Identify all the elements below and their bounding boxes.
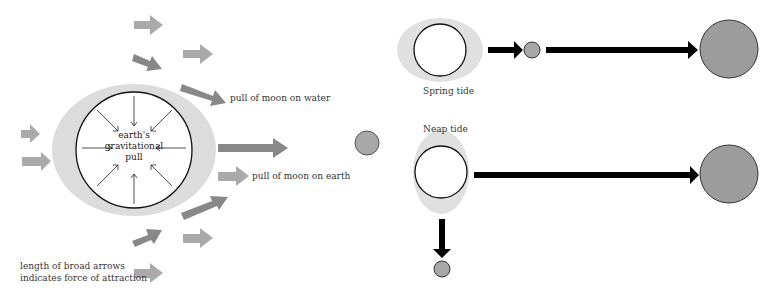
arrow-to-sun-icon (474, 166, 699, 184)
broad-arrow-icon (218, 166, 249, 186)
neap-tide-sun (700, 145, 758, 203)
label-moon-on-water: pull of moon on water (230, 92, 330, 104)
broad-arrow-icon (183, 44, 213, 64)
earth-label-line: pull (94, 152, 174, 163)
arrow-to-moon-icon (488, 41, 523, 59)
label-moon-on-earth: pull of moon on earth (252, 170, 350, 182)
earth-gravity-label: earth's gravitational pull (94, 130, 174, 163)
broad-arrow-icon (218, 138, 288, 158)
broad-arrow-icon (132, 54, 162, 71)
arrow-to-moon-icon (433, 219, 451, 258)
earth-label-line: earth's (94, 130, 174, 141)
arrow-to-sun-icon (546, 41, 698, 59)
broad-arrow-icon (183, 228, 213, 248)
neap-tide-moon (434, 261, 450, 277)
broad-arrow-icon (22, 152, 51, 171)
broad-arrow-icon (132, 229, 162, 247)
spring-tide-label: Spring tide (423, 85, 474, 97)
spring-tide-earth (414, 24, 466, 76)
legend-text: length of broad arrows indicates force o… (20, 260, 147, 284)
neap-tide-earth (415, 146, 467, 198)
earth-label-line: gravitational (94, 141, 174, 152)
broad-arrow-icon (21, 124, 40, 143)
spring-tide-moon (524, 42, 540, 58)
neap-tide-label: Neap tide (423, 123, 468, 135)
legend-line: indicates force of attraction (20, 272, 147, 284)
legend-line: length of broad arrows (20, 260, 147, 272)
moon (355, 131, 379, 155)
broad-arrow-icon (134, 15, 163, 35)
spring-tide-sun (700, 20, 758, 78)
